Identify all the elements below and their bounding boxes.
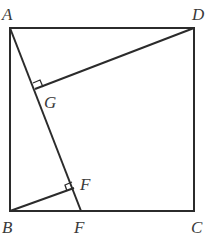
label-d: D (191, 5, 205, 24)
label-g: G (44, 93, 56, 112)
label-a: A (1, 5, 13, 24)
label-e: F (73, 218, 85, 235)
label-c: C (191, 218, 203, 235)
square-abcd (10, 28, 194, 211)
label-b: B (2, 218, 13, 235)
segment-bf (10, 188, 74, 211)
geometry-diagram: A D B C G F F (0, 0, 211, 235)
segment-ae (10, 28, 81, 211)
label-f: F (79, 175, 91, 194)
diagram-svg: A D B C G F F (0, 0, 211, 235)
segment-dg (35, 28, 194, 89)
